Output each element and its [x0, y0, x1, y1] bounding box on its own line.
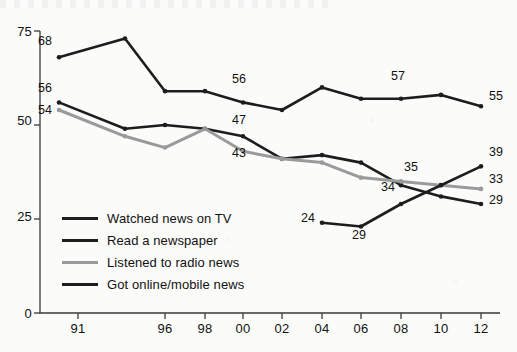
data-label-radio-2012: 33: [489, 172, 503, 186]
x-tick-label-98: 98: [189, 321, 221, 336]
legend-swatch-watched-news-on-tv: [62, 217, 98, 220]
legend-item-listened-to-radio-news[interactable]: Listened to radio news: [62, 251, 272, 273]
x-tick-label-06: 06: [345, 321, 377, 336]
y-tick-label-0: 0: [6, 306, 32, 321]
legend-label-got-online-mobile-news: Got online/mobile news: [107, 277, 244, 292]
data-label-tv-2012: 55: [489, 89, 503, 103]
data-label-radio-2008: 35: [404, 160, 418, 174]
y-tick-label-25: 25: [6, 209, 32, 224]
x-tick-label-04: 04: [306, 321, 338, 336]
legend-swatch-read-a-newspaper: [62, 239, 98, 242]
x-tick-label-12: 12: [465, 321, 497, 336]
data-label-newspaper-2008: 34: [381, 180, 395, 194]
data-label-online-2012: 39: [489, 145, 503, 159]
x-tick-label-96: 96: [149, 321, 181, 336]
legend-swatch-listened-to-radio-news: [62, 261, 98, 264]
legend-swatch-got-online-mobile-news: [62, 283, 98, 286]
chart-legend: Watched news on TV Read a newspaper List…: [62, 207, 272, 295]
data-label-newspaper-1990: 56: [38, 81, 52, 95]
x-tick-label-00: 00: [227, 321, 259, 336]
x-tick-label-10: 10: [425, 321, 457, 336]
data-label-online-2004: 24: [301, 211, 315, 225]
y-tick-label-50: 50: [6, 113, 32, 128]
legend-item-got-online-mobile-news[interactable]: Got online/mobile news: [62, 273, 272, 295]
legend-item-read-a-newspaper[interactable]: Read a newspaper: [62, 229, 272, 251]
data-label-radio-2000: 43: [232, 146, 246, 160]
legend-label-listened-to-radio-news: Listened to radio news: [107, 255, 239, 270]
x-tick-label-02: 02: [266, 321, 298, 336]
data-label-tv-1990: 68: [38, 34, 52, 48]
x-tick-label-91: 91: [62, 321, 94, 336]
data-label-tv-2000: 56: [232, 72, 246, 86]
data-label-online-2006: 29: [352, 228, 366, 242]
data-label-newspaper-2000: 47: [232, 113, 246, 127]
data-label-tv-2008: 57: [391, 69, 405, 83]
plot-area: [0, 0, 517, 352]
y-tick-label-75: 75: [6, 24, 32, 39]
x-tick-label-08: 08: [385, 321, 417, 336]
data-label-newspaper-2012: 29: [489, 193, 503, 207]
line-chart: 75 50 25 0 91 96 98 00 02 04 06 08 10 12…: [0, 0, 517, 352]
data-label-radio-1990: 54: [38, 103, 52, 117]
legend-item-watched-news-on-tv[interactable]: Watched news on TV: [62, 207, 272, 229]
legend-label-watched-news-on-tv: Watched news on TV: [107, 211, 232, 226]
legend-label-read-a-newspaper: Read a newspaper: [107, 233, 218, 248]
